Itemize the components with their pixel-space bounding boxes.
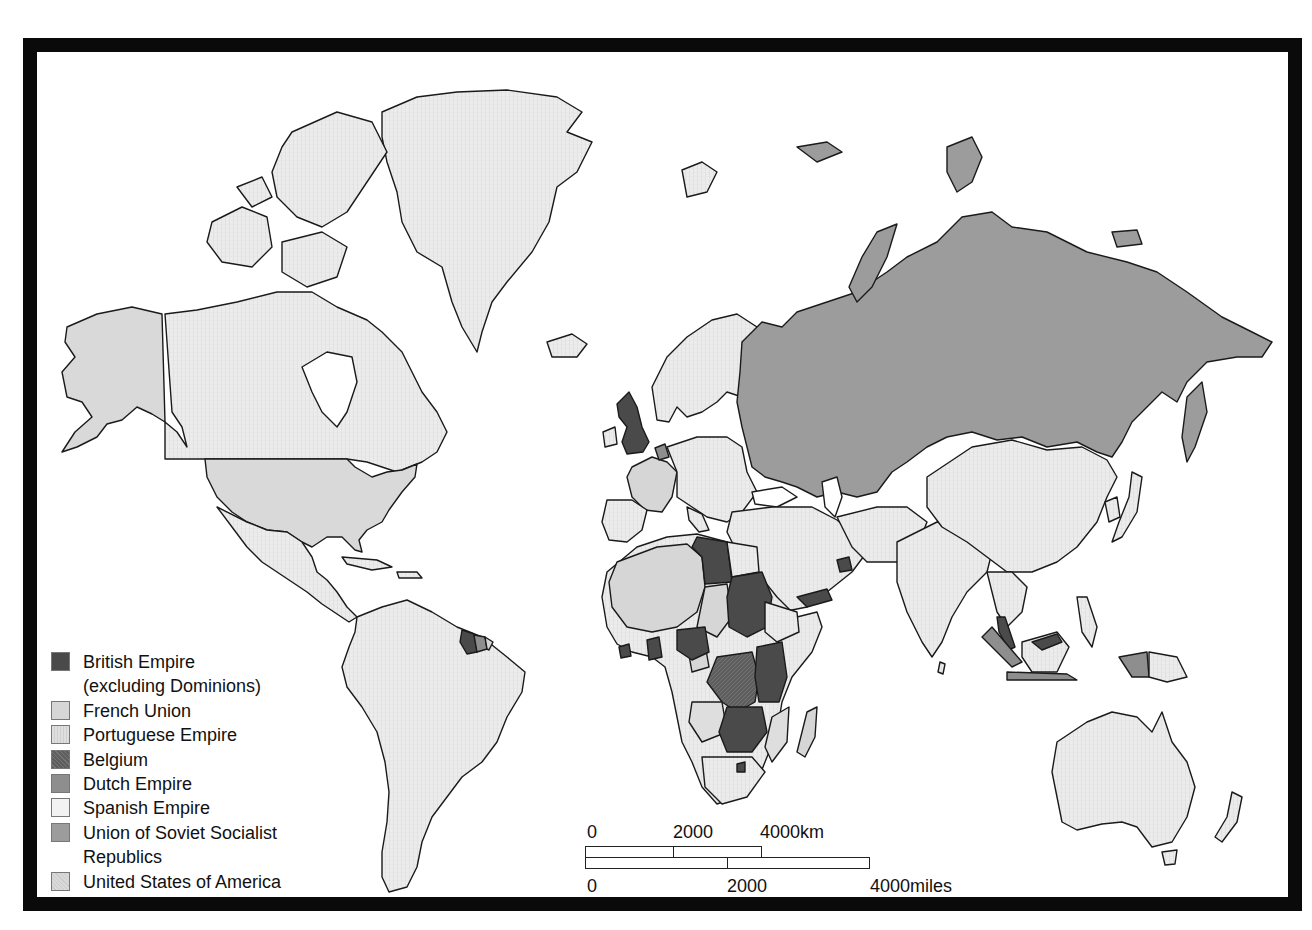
swatch-spanish <box>51 798 70 817</box>
swatch-dutch <box>51 774 70 793</box>
region-arctic-islands <box>272 112 387 227</box>
legend-item-british: British Empire <box>51 650 331 674</box>
legend-label: Dutch Empire <box>83 772 192 796</box>
legend-item-usa: United States of America <box>51 870 331 894</box>
region-madagascar <box>797 707 817 757</box>
region-indochina <box>987 572 1027 627</box>
scale-miles-tick-4000: 4000miles <box>870 876 952 896</box>
region-central-europe <box>667 437 757 522</box>
legend-item-dutch: Dutch Empire <box>51 772 331 796</box>
region-new-guinea-dutch <box>1119 652 1149 677</box>
swatch-french <box>51 701 70 720</box>
legend-item-ussr: Union of Soviet Socialist <box>51 821 331 845</box>
swatch-british <box>51 652 70 671</box>
legend-label: Belgium <box>83 748 148 772</box>
legend-label: United States of America <box>83 870 281 894</box>
region-greenland <box>382 90 592 352</box>
region-south-america <box>342 600 525 892</box>
legend-item-belgium: Belgium <box>51 748 331 772</box>
scale-miles-tick-0: 0 <box>587 876 597 896</box>
legend-item-spanish: Spanish Empire <box>51 796 331 820</box>
region-east-africa <box>755 642 787 702</box>
region-united-kingdom <box>617 392 649 454</box>
region-canada <box>165 292 447 472</box>
scale-miles-segment-1 <box>585 857 728 869</box>
region-iberia <box>602 500 647 542</box>
map-frame: British Empire (excluding Dominions) Fre… <box>23 38 1302 911</box>
region-alaska <box>62 307 165 452</box>
region-usa <box>205 459 417 552</box>
scale-km-tick-0: 0 <box>587 822 597 842</box>
scale-km-tick-4000: 4000km <box>760 822 824 842</box>
legend-item-portuguese: Portuguese Empire <box>51 723 331 747</box>
legend-label: French Union <box>83 699 191 723</box>
legend-label: Spanish Empire <box>83 796 210 820</box>
swatch-ussr <box>51 823 70 842</box>
swatch-belgium <box>51 750 70 769</box>
legend-label: Portuguese Empire <box>83 723 237 747</box>
legend-label-continuation: Republics <box>51 845 331 869</box>
legend-label: British Empire <box>83 650 195 674</box>
map-legend: British Empire (excluding Dominions) Fre… <box>51 650 331 894</box>
legend-label-continuation: (excluding Dominions) <box>51 674 331 698</box>
region-new-guinea-east <box>1149 652 1187 682</box>
swatch-portuguese <box>51 725 70 744</box>
swatch-usa <box>51 872 70 891</box>
scale-miles-segment-2 <box>727 857 870 869</box>
scale-km-tick-2000: 2000 <box>673 822 713 842</box>
legend-item-french: French Union <box>51 699 331 723</box>
region-philippines <box>1077 597 1097 647</box>
scale-bar: 0 2000 4000km 0 2000 4000miles <box>585 820 985 900</box>
scale-miles-tick-2000: 2000 <box>727 876 767 896</box>
region-australia <box>1052 712 1195 847</box>
legend-label: Union of Soviet Socialist <box>83 821 277 845</box>
